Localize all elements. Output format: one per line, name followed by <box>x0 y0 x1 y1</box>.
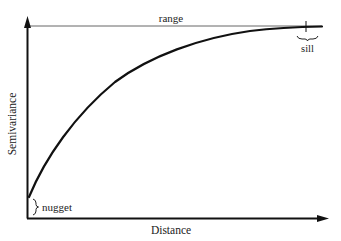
semivariogram-curve <box>29 27 322 198</box>
x-axis-arrow-icon <box>317 215 329 222</box>
y-axis-label: Semivariance <box>6 93 18 156</box>
semivariogram-diagram: sill range nugget Distance Semivariance <box>0 0 341 241</box>
sill-brace-icon <box>297 36 318 41</box>
x-axis-label: Distance <box>151 224 191 236</box>
nugget-label: nugget <box>42 201 72 213</box>
range-label: range <box>159 12 184 24</box>
sill-label: sill <box>301 43 314 54</box>
y-axis-arrow-icon <box>24 16 31 28</box>
nugget-brace-icon <box>33 199 39 215</box>
